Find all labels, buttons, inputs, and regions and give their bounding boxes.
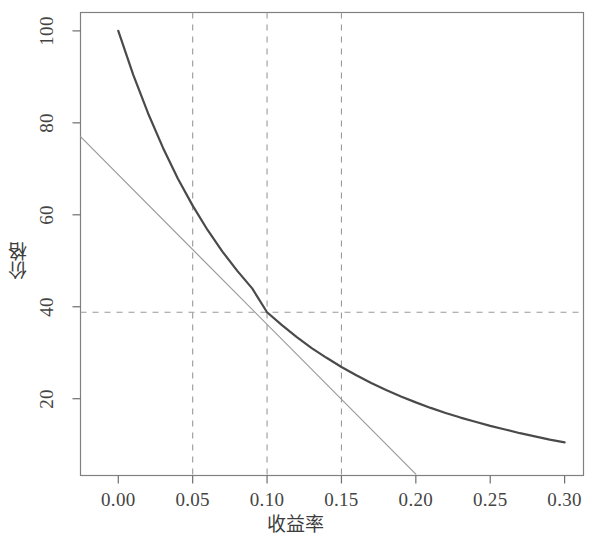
x-tick-label: 0.30 bbox=[547, 489, 581, 511]
vertical-dashed-reference-lines bbox=[193, 13, 342, 476]
x-axis-title: 收益率 bbox=[267, 509, 324, 536]
y-tick-label: 40 bbox=[36, 297, 58, 317]
tangent-line bbox=[81, 137, 416, 474]
y-axis-tick-marks bbox=[73, 31, 81, 399]
x-tick-label: 0.10 bbox=[250, 489, 284, 511]
plot-box-border bbox=[81, 13, 584, 476]
y-tick-label: 20 bbox=[36, 389, 58, 409]
x-tick-label: 0.15 bbox=[324, 489, 358, 511]
x-tick-label: 0.00 bbox=[101, 489, 135, 511]
x-axis-tick-marks bbox=[118, 476, 564, 484]
y-tick-label: 60 bbox=[36, 205, 58, 225]
x-tick-label: 0.05 bbox=[175, 489, 209, 511]
y-tick-label: 80 bbox=[36, 113, 58, 133]
plot-canvas bbox=[0, 0, 591, 540]
price-yield-chart: 0.000.050.100.150.200.250.30 20406080100… bbox=[0, 0, 591, 540]
x-tick-label: 0.25 bbox=[473, 489, 507, 511]
x-tick-label: 0.20 bbox=[399, 489, 433, 511]
y-axis-title: 价格 bbox=[4, 242, 31, 280]
y-tick-label: 100 bbox=[36, 16, 58, 45]
price-yield-curve bbox=[118, 31, 564, 443]
